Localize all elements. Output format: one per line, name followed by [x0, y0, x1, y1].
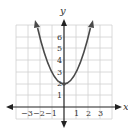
svg-text:−1: −1 — [45, 109, 57, 118]
curve-left-arrow-icon — [34, 20, 40, 28]
svg-text:1: 1 — [57, 91, 62, 100]
curve-right-arrow-icon — [88, 20, 94, 28]
svg-text:3: 3 — [57, 68, 62, 77]
svg-text:1: 1 — [74, 109, 79, 118]
svg-text:6: 6 — [57, 33, 62, 42]
y-axis-down-arrow-icon — [61, 121, 67, 128]
svg-text:−2: −2 — [33, 109, 45, 118]
x-axis-label: x — [123, 101, 128, 112]
vertex-point — [62, 82, 66, 86]
svg-text:5: 5 — [57, 44, 62, 53]
svg-text:−3: −3 — [21, 109, 33, 118]
parabola-chart: x y −3 −2 −1 1 2 3 1 2 3 4 5 6 — [0, 0, 128, 132]
svg-text:3: 3 — [98, 109, 103, 118]
y-axis-up-arrow-icon — [61, 19, 67, 26]
x-tick-labels: −3 −2 −1 1 2 3 — [21, 109, 103, 118]
y-axis-label: y — [59, 5, 66, 16]
y-tick-labels: 1 2 3 4 5 6 — [57, 33, 62, 100]
x-axis-left-arrow-icon — [6, 104, 13, 110]
x-axis-right-arrow-icon — [115, 104, 122, 110]
svg-text:4: 4 — [57, 56, 62, 65]
svg-text:2: 2 — [86, 109, 91, 118]
